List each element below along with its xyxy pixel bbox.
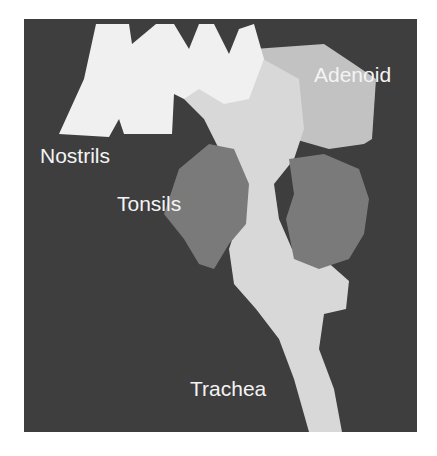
- label-adenoid: Adenoid: [314, 64, 391, 85]
- label-trachea: Trachea: [190, 378, 266, 399]
- right-tonsil-shape: [286, 154, 369, 269]
- label-tonsils: Tonsils: [117, 193, 181, 214]
- label-nostrils: Nostrils: [40, 145, 110, 166]
